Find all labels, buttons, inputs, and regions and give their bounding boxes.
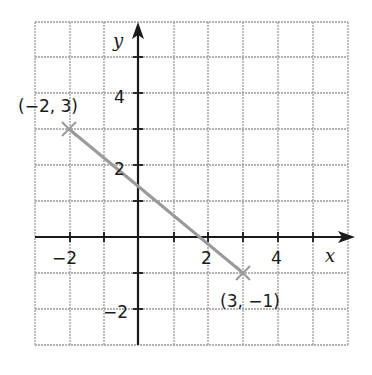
y-tick-label: 2: [114, 159, 125, 179]
x-tick-label: 2: [201, 248, 212, 268]
y-tick-label: 4: [114, 87, 125, 107]
point-a-label: (−2, 3): [18, 96, 78, 116]
axes: [35, 30, 345, 345]
y-axis-label: y: [112, 30, 124, 51]
x-axis-label: x: [325, 245, 335, 266]
coordinate-plane: y x −2 2 4 4 2 −2 (−2, 3) (3, −1): [0, 0, 372, 375]
x-tick-label: 4: [271, 248, 282, 268]
ticks: [70, 57, 313, 309]
grid: [35, 22, 348, 345]
point-a-marker-icon: [62, 122, 76, 136]
y-tick-label: −2: [103, 302, 128, 322]
point-b-label: (3, −1): [220, 291, 280, 311]
x-tick-label: −2: [52, 248, 77, 268]
